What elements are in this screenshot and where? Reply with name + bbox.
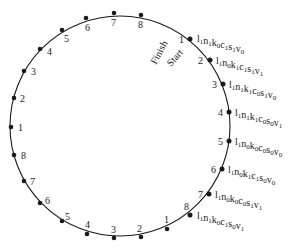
state-dot [188, 213, 193, 218]
state-label: l1n0k0c0s0v0 [235, 136, 283, 159]
point-number: 2 [20, 93, 25, 104]
state-points: 1l1n1k0c1s1v02l1n0k1c1s1v13l1n1k1c0s1v04… [179, 33, 283, 233]
state-dot [188, 37, 193, 42]
state-number: 3 [212, 79, 217, 90]
point-number: 5 [65, 211, 70, 222]
state-dot [207, 192, 212, 197]
point-number: 6 [85, 22, 90, 33]
state-number: 7 [198, 189, 203, 200]
state-label: l1n1k0c1s0v1 [197, 210, 245, 233]
outer-points: 2345678187654321 [9, 11, 170, 241]
point-dot [22, 179, 27, 184]
cycle-circle [10, 16, 230, 236]
point-dot [84, 16, 89, 21]
state-label: l1n1k0c1s1v0 [197, 33, 245, 56]
state-number: 4 [218, 107, 223, 118]
state-number: 6 [211, 164, 216, 175]
state-label: l1n0k1c1s0v0 [228, 164, 276, 187]
point-dot [139, 13, 144, 18]
state-dot [227, 110, 232, 115]
point-dot [139, 235, 144, 240]
state-number: 5 [218, 136, 223, 147]
start-label: Start [164, 47, 185, 69]
point-dot [112, 11, 117, 16]
point-number: 3 [111, 224, 116, 235]
point-dot [22, 69, 27, 74]
point-number: 2 [137, 223, 142, 234]
state-number: 1 [179, 34, 184, 45]
point-dot [9, 125, 14, 130]
state-label: l1n0k1c1s1v1 [216, 55, 264, 78]
point-number: 8 [138, 19, 143, 30]
point-number: 1 [164, 214, 169, 225]
point-dot [85, 232, 90, 237]
state-number: 2 [198, 55, 203, 66]
point-dot [112, 236, 117, 241]
point-number: 1 [18, 122, 23, 133]
point-dot [38, 47, 43, 52]
point-number: 7 [111, 17, 116, 28]
point-dot [165, 227, 170, 232]
state-dot [208, 58, 213, 63]
state-label: l1n0k0c0s1v1 [215, 189, 263, 212]
point-number: 4 [47, 46, 52, 57]
state-number: 8 [184, 201, 189, 212]
state-dot [221, 82, 226, 87]
state-cycle-diagram: 2345678187654321 1l1n1k0c1s1v02l1n0k1c1s… [0, 0, 303, 251]
point-number: 7 [30, 176, 35, 187]
state-label: l1n1k1c0s1v0 [229, 79, 277, 102]
point-dot [60, 219, 65, 224]
point-dot [38, 201, 43, 206]
state-dot [227, 139, 232, 144]
point-number: 3 [31, 66, 36, 77]
point-dot [12, 153, 17, 158]
point-number: 6 [45, 195, 50, 206]
point-dot [12, 96, 17, 101]
point-number: 4 [85, 219, 90, 230]
state-label: l1n1k1c0s0v1 [235, 107, 283, 130]
point-number: 8 [21, 150, 26, 161]
state-dot [220, 167, 225, 172]
point-number: 5 [64, 33, 69, 44]
point-dot [60, 28, 65, 33]
